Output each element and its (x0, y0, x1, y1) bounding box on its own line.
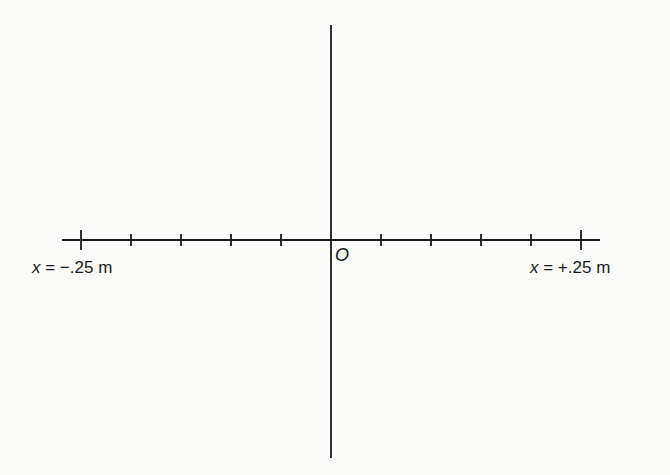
left-label-variable: x (32, 258, 41, 277)
right-label-value: = +.25 m (539, 258, 611, 277)
right-label-variable: x (530, 258, 539, 277)
origin-label: O (335, 246, 349, 264)
right-endpoint-label: x = +.25 m (530, 259, 610, 276)
left-label-value: = −.25 m (41, 258, 113, 277)
left-endpoint-label: x = −.25 m (32, 259, 112, 276)
coordinate-axes-diagram (0, 0, 670, 475)
